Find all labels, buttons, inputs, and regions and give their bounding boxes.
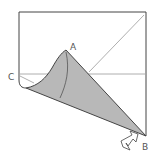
push-arrow-icon	[121, 131, 138, 150]
origami-diagram: A C B	[0, 0, 157, 162]
folded-flap	[26, 50, 146, 136]
diagonal-crease	[89, 15, 144, 72]
label-a: A	[70, 42, 77, 52]
label-b: B	[142, 142, 148, 152]
label-c: C	[8, 72, 14, 82]
corner-curl	[19, 80, 26, 88]
c-crease	[20, 76, 34, 83]
